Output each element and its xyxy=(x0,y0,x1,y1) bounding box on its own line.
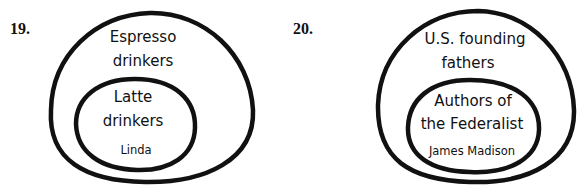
problem-number-20: 20. xyxy=(293,20,313,38)
problem-number-19: 19. xyxy=(10,20,30,38)
member-label-20: James Madison xyxy=(429,144,515,158)
outer-set-label-19-line2: drinkers xyxy=(113,50,174,72)
venn-diagram-worksheet: 19. Espresso drinkers Latte drinkers Lin… xyxy=(0,0,581,192)
member-label-19: Linda xyxy=(120,143,151,157)
outer-set-label-20-line2: fathers xyxy=(441,52,494,74)
outer-set-label-20-line1: U.S. founding xyxy=(425,28,526,50)
inner-set-label-20-line2: the Federalist xyxy=(421,113,524,135)
inner-set-label-19-line1: Latte xyxy=(114,86,153,108)
outer-set-label-19-line1: Espresso xyxy=(110,26,177,48)
inner-set-label-20-line1: Authors of xyxy=(434,90,512,112)
inner-set-label-19-line2: drinkers xyxy=(103,110,164,132)
